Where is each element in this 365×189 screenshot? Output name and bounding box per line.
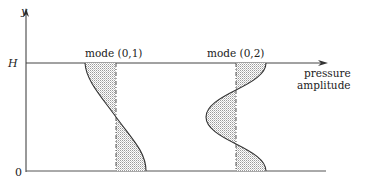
mode-02-profile [206, 63, 266, 171]
mode-01-profile [85, 63, 146, 171]
mode-01-label: mode (0,1) [85, 47, 142, 59]
pressure-mode-diagram: y H 0 mode (0,1) mode (0,2) pressure amp… [0, 0, 365, 189]
h-label: H [7, 57, 18, 70]
x-axis-label-line1: pressure [304, 67, 351, 79]
y-axis-label: y [20, 5, 28, 18]
x-axis-label-line2: amplitude [297, 79, 351, 91]
h-line-x-axis [26, 60, 328, 66]
y-axis [23, 8, 29, 172]
zero-label: 0 [15, 166, 22, 179]
mode-02-label: mode (0,2) [207, 47, 264, 59]
